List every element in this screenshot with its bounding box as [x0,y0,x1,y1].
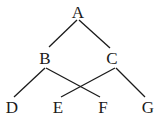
node-b: B [39,50,50,67]
node-c: C [106,50,117,67]
node-f: F [98,99,107,116]
node-a: A [72,4,84,21]
edge-c-g [116,68,145,97]
edge-c-e [61,68,115,97]
tree-diagram: A B C D E F G [0,0,161,117]
edge-b-f [46,68,100,97]
edge-b-d [14,68,45,97]
edge-a-c [79,20,110,48]
node-d: D [6,99,18,116]
node-g: G [142,99,154,116]
node-e: E [53,99,63,116]
edge-a-b [49,20,77,47]
